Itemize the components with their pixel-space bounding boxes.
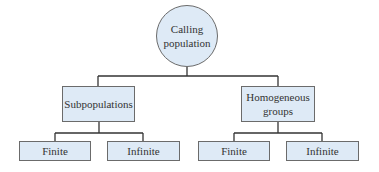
node-infinite-left: Infinite — [107, 141, 180, 161]
infinite-right-label: Infinite — [306, 144, 338, 158]
root-label-line1: Calling — [171, 22, 203, 36]
root-label-line2: population — [163, 36, 210, 50]
finite-left-label: Finite — [42, 144, 68, 158]
subpopulations-label: Subpopulations — [64, 97, 132, 111]
root-node-calling-population: Calling population — [156, 5, 218, 67]
node-infinite-right: Infinite — [286, 141, 359, 161]
infinite-left-label: Infinite — [127, 144, 159, 158]
node-finite-left: Finite — [19, 141, 91, 161]
node-finite-right: Finite — [198, 141, 270, 161]
finite-right-label: Finite — [221, 144, 247, 158]
node-subpopulations: Subpopulations — [62, 86, 135, 122]
homogeneous-label-line1: Homogeneous — [246, 90, 310, 104]
homogeneous-label-line2: groups — [263, 104, 293, 118]
node-homogeneous-groups: Homogeneous groups — [241, 86, 315, 122]
